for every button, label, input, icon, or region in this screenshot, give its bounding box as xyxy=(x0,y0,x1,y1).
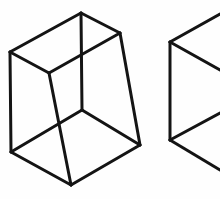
frustum-left-edge-top_front_inner-to-top_left xyxy=(10,52,49,73)
frustum-left-edge-bottom_left-to-bottom_inner xyxy=(11,110,82,152)
frustum-right-edges xyxy=(170,14,220,170)
frustum-left-edge-top_right-to-top_front_inner xyxy=(49,33,120,73)
frustum-left-edge-top_back_apex-to-top_right xyxy=(81,13,120,33)
frustum-left-edge-bottom_left-to-bottom_front xyxy=(11,152,71,185)
wireframe-illustration xyxy=(0,0,220,199)
frustum-left-edges xyxy=(10,13,140,185)
frustum-right-edge-bottom_left-to-bottom_edge_exit xyxy=(170,140,220,170)
frustum-left-edge-bottom_front-to-bottom_right xyxy=(71,145,140,185)
frustum-left-edge-top_left-to-top_back_apex xyxy=(10,13,81,52)
frustum-right-edge-top_left-to-top_edge_exit xyxy=(170,14,220,42)
frustum-left-edge-top_right-to-bottom_right xyxy=(120,33,140,145)
frustum-right-edge-bottom_left-to-mid_lower_exit xyxy=(170,113,220,140)
frustum-left-edge-top_left-to-bottom_left xyxy=(10,52,11,152)
frustum-left-edge-bottom_inner-to-bottom_right xyxy=(82,110,140,145)
drawing-canvas xyxy=(0,0,220,199)
frustum-right-figure xyxy=(170,14,220,170)
frustum-left-figure xyxy=(10,13,140,185)
frustum-left-edge-top_back_apex-to-bottom_inner xyxy=(81,13,82,110)
frustum-right-edge-top_left-to-mid_upper_exit xyxy=(170,42,220,70)
